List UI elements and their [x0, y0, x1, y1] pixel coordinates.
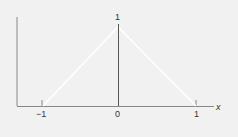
x-axis-label: x: [216, 103, 221, 112]
tick-label-0: 0: [115, 110, 120, 119]
tick-label-1: 1: [194, 110, 199, 119]
chart-figure: 1 −1 0 1 x: [0, 0, 238, 137]
tick-label-neg1: −1: [36, 110, 46, 119]
triangle-curve: [43, 27, 196, 106]
peak-label: 1: [115, 13, 120, 22]
